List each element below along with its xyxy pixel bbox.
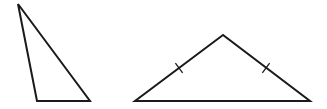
diagram-canvas — [0, 0, 327, 109]
isosceles-triangle — [135, 35, 310, 101]
isosceles-triangle-outline — [135, 35, 310, 101]
scalene-triangle — [18, 4, 90, 101]
tick-mark-left — [175, 63, 182, 73]
scalene-triangle-outline — [18, 4, 90, 101]
triangles-figure — [0, 0, 327, 109]
